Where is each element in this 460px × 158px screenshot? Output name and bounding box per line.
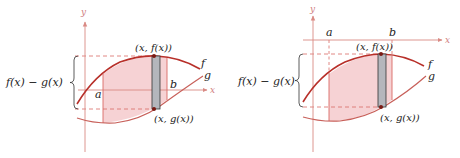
point-g-label: (x, g(x)) <box>154 113 194 124</box>
brace-label: f(x) − g(x) <box>237 75 295 88</box>
right-panel: f(x) − g(x) y x a b f g (x, f(x)) (x, g(… <box>237 4 450 152</box>
point-g-label: (x, g(x)) <box>380 112 420 123</box>
b-label: b <box>389 26 396 39</box>
b-label: b <box>170 78 177 91</box>
x-axis-label: x <box>210 85 215 95</box>
representative-rectangle <box>378 54 386 107</box>
area-between-curves-diagram: f(x) − g(x) y x a b f g (x, f(x)) (x, g(… <box>0 0 460 158</box>
point-f-label: (x, f(x)) <box>135 42 172 53</box>
representative-rectangle <box>152 56 160 109</box>
point-f <box>152 54 156 58</box>
left-panel: f(x) − g(x) y x a b f g (x, f(x)) (x, g(… <box>5 7 215 152</box>
a-label: a <box>326 26 333 39</box>
brace-label: f(x) − g(x) <box>5 76 63 89</box>
g-label: g <box>428 70 435 83</box>
brace <box>70 56 78 109</box>
y-axis-label: y <box>309 4 316 14</box>
point-g <box>379 105 383 109</box>
a-label: a <box>95 88 102 101</box>
point-f-label: (x, f(x)) <box>356 41 393 52</box>
point-f <box>379 52 383 56</box>
brace <box>295 54 303 107</box>
x-axis-label: x <box>445 35 450 45</box>
point-g <box>152 107 156 111</box>
y-axis-label: y <box>80 7 87 17</box>
g-label: g <box>204 69 211 82</box>
